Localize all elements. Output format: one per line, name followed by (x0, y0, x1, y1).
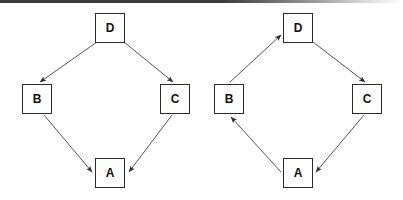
node-label: C (363, 93, 372, 105)
node-label: D (106, 22, 115, 34)
node-d[interactable]: D (95, 13, 125, 43)
node-a[interactable]: A (95, 158, 125, 188)
edge-b-to-d (230, 35, 281, 82)
edge-layer (0, 0, 403, 200)
edge-b-to-a (44, 115, 92, 172)
edge-c-to-a (129, 115, 172, 172)
node-label: B (33, 93, 42, 105)
node-b[interactable]: B (22, 84, 52, 114)
edge-d-to-c (124, 42, 173, 82)
node-label: B (225, 93, 234, 105)
node-label: C (171, 93, 180, 105)
edge-a-to-b (231, 117, 281, 172)
node-label: A (106, 167, 115, 179)
node-b[interactable]: B (214, 84, 244, 114)
node-label: D (294, 22, 303, 34)
node-label: A (294, 167, 303, 179)
diagram-canvas: DBCADBCA (0, 0, 403, 200)
node-a[interactable]: A (283, 158, 313, 188)
edge-c-to-a (316, 115, 364, 172)
node-d[interactable]: D (283, 13, 313, 43)
node-c[interactable]: C (352, 84, 382, 114)
edge-d-to-c (313, 42, 365, 82)
edges-group (40, 35, 365, 172)
node-c[interactable]: C (160, 84, 190, 114)
edge-d-to-b (40, 42, 97, 82)
